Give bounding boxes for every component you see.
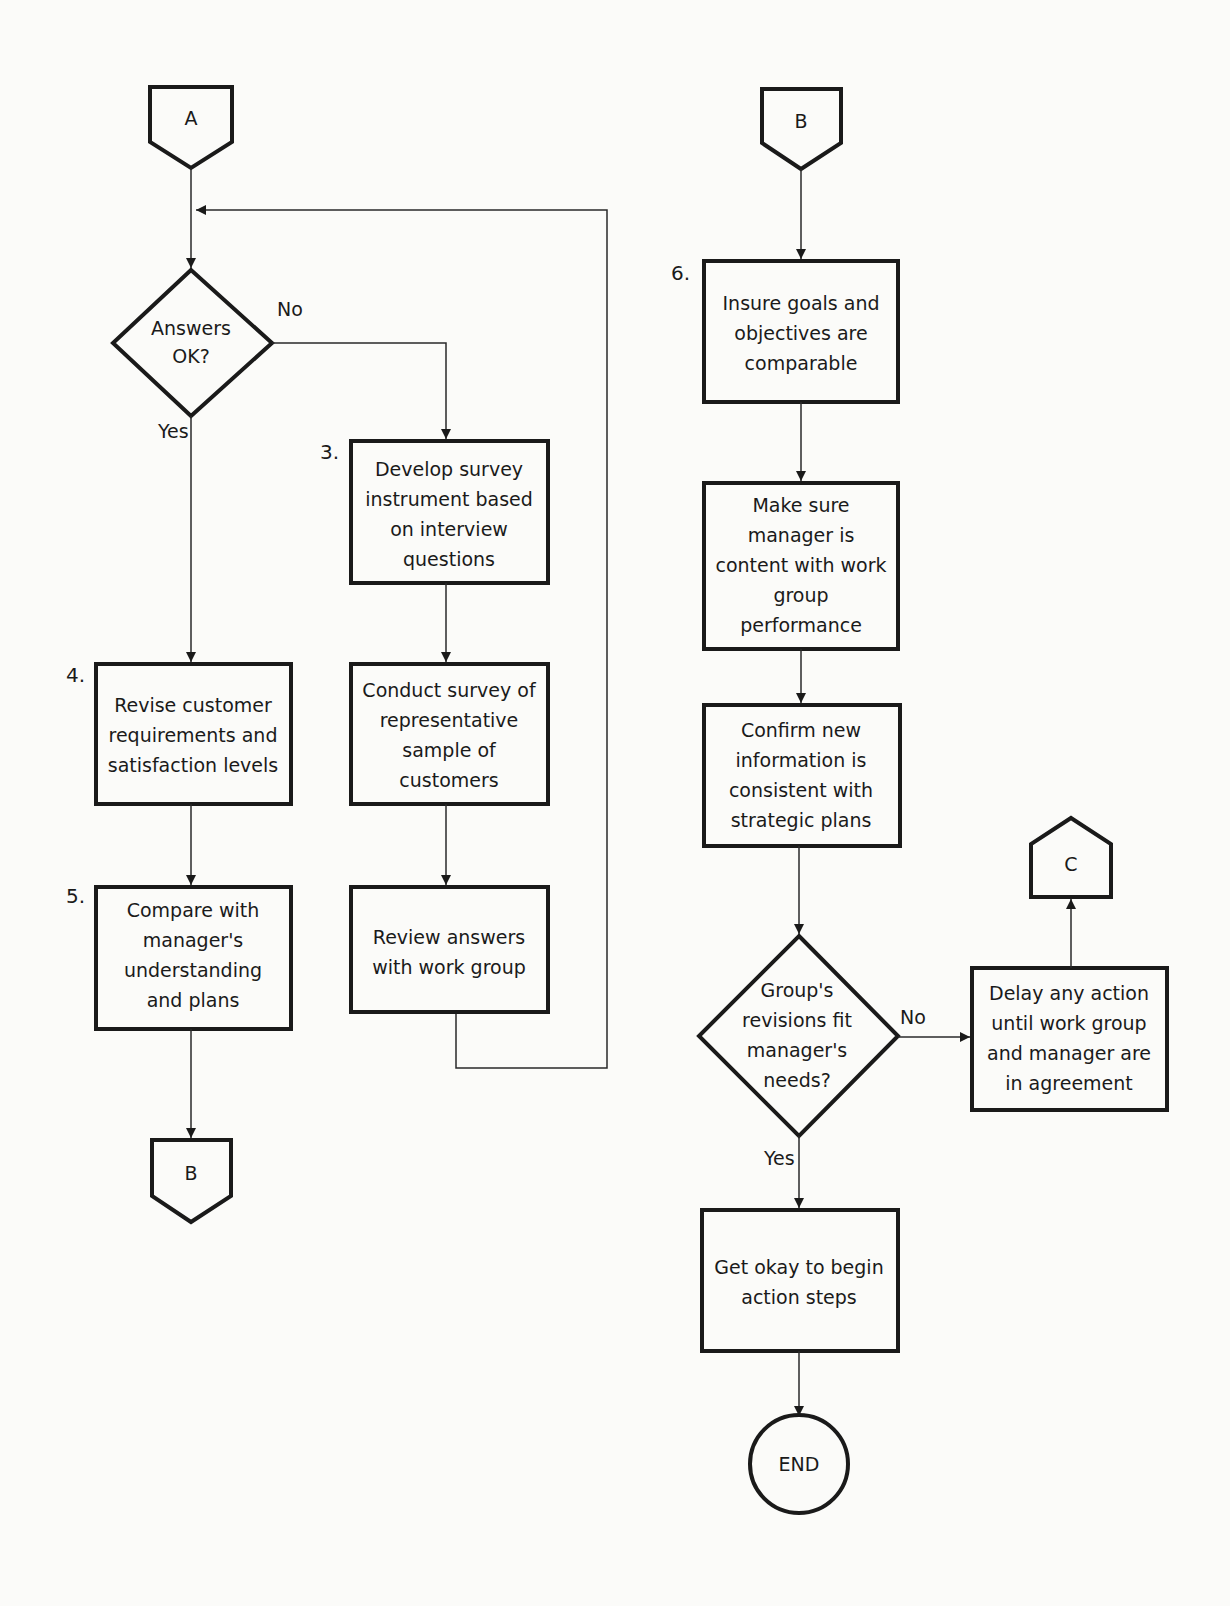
conduct-line: customers <box>399 769 498 791</box>
step-5-line: and plans <box>147 989 240 1011</box>
delay-line: until work group <box>991 1012 1146 1034</box>
connector-a: A <box>150 87 232 168</box>
confirm-line: information is <box>736 749 867 771</box>
step-5-line: Compare with <box>127 899 260 921</box>
content-line: content with work <box>715 554 886 576</box>
okay-line: action steps <box>741 1286 857 1308</box>
conduct-line: representative <box>380 709 519 731</box>
arrow-no-to-step3 <box>272 343 446 439</box>
connector-b-bottom: B <box>152 1140 231 1222</box>
connector-c: C <box>1031 818 1111 897</box>
decision-answers-ok: Answers OK? <box>113 270 272 416</box>
step-conduct-survey: Conduct survey of representative sample … <box>351 664 548 804</box>
connector-c-label: C <box>1064 853 1077 875</box>
decision-revisions-fit: Group's revisions fit manager's needs? <box>699 936 898 1136</box>
step-3-line: on interview <box>390 518 508 540</box>
step-6-line: comparable <box>745 352 858 374</box>
step-3-develop-survey: 3. Develop survey instrument based on in… <box>320 440 548 583</box>
step-review-answers: Review answers with work group <box>351 887 548 1012</box>
delay-line: Delay any action <box>989 982 1149 1004</box>
step-6-line: objectives are <box>734 322 867 344</box>
decision-revisions-line: Group's <box>761 979 834 1001</box>
decision-revisions-line: needs? <box>763 1069 830 1091</box>
step-4-number: 4. <box>66 663 85 687</box>
terminal-end-label: END <box>779 1453 820 1475</box>
connector-b-bottom-label: B <box>184 1162 197 1184</box>
step-4-line: requirements and <box>109 724 278 746</box>
review-line: Review answers <box>373 926 525 948</box>
step-6-number: 6. <box>671 261 690 285</box>
review-line: with work group <box>372 956 526 978</box>
decision-revisions-line: manager's <box>747 1039 848 1061</box>
terminal-end: END <box>750 1415 848 1513</box>
step-delay-action: Delay any action until work group and ma… <box>972 968 1167 1110</box>
step-5-number: 5. <box>66 884 85 908</box>
answers-ok-yes-label: Yes <box>157 420 189 442</box>
connector-b-top: B <box>762 89 841 169</box>
step-5-line: understanding <box>124 959 262 981</box>
step-3-line: instrument based <box>365 488 533 510</box>
answers-ok-no-label: No <box>277 298 303 320</box>
okay-line: Get okay to begin <box>714 1256 883 1278</box>
revisions-no-label: No <box>900 1006 926 1028</box>
flowchart: A Answers OK? No Yes 3. Develop survey i… <box>0 0 1230 1606</box>
revisions-yes-label: Yes <box>763 1147 795 1169</box>
step-4-line: Revise customer <box>114 694 272 716</box>
conduct-line: sample of <box>402 739 497 761</box>
confirm-line: Confirm new <box>741 719 861 741</box>
content-line: group <box>773 584 828 606</box>
step-5-line: manager's <box>143 929 244 951</box>
decision-answers-ok-line2: OK? <box>172 345 210 367</box>
connector-a-label: A <box>185 107 198 129</box>
conduct-line: Conduct survey of <box>362 679 537 701</box>
content-line: Make sure <box>752 494 849 516</box>
step-4-revise-requirements: 4. Revise customer requirements and sati… <box>66 663 291 804</box>
decision-revisions-line: revisions fit <box>742 1009 852 1031</box>
confirm-line: strategic plans <box>731 809 872 831</box>
content-line: performance <box>740 614 862 636</box>
step-4-line: satisfaction levels <box>108 754 278 776</box>
step-3-number: 3. <box>320 440 339 464</box>
step-3-line: Develop survey <box>375 458 523 480</box>
step-5-compare: 5. Compare with manager's understanding … <box>66 884 291 1029</box>
connector-b-top-label: B <box>794 110 807 132</box>
step-confirm-information: Confirm new information is consistent wi… <box>704 705 900 846</box>
delay-line: in agreement <box>1005 1072 1133 1094</box>
step-manager-content: Make sure manager is content with work g… <box>704 483 898 649</box>
confirm-line: consistent with <box>729 779 873 801</box>
step-get-okay: Get okay to begin action steps <box>702 1210 898 1351</box>
step-6-line: Insure goals and <box>722 292 879 314</box>
step-3-line: questions <box>403 548 495 570</box>
decision-answers-ok-line1: Answers <box>151 317 231 339</box>
delay-line: and manager are <box>987 1042 1151 1064</box>
content-line: manager is <box>748 524 855 546</box>
step-6-insure-goals: 6. Insure goals and objectives are compa… <box>671 261 898 402</box>
